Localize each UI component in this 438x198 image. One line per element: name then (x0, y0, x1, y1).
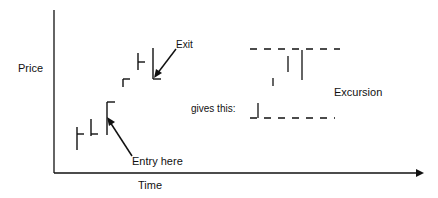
entry-label: Entry here (132, 155, 183, 167)
diagram-canvas (0, 0, 438, 198)
price-bar-5 (138, 53, 145, 70)
y-axis-label: Price (18, 62, 43, 74)
exit-label: Exit (176, 39, 193, 51)
entry-arrow-icon (107, 117, 132, 156)
excursion-label: Excursion (334, 86, 382, 98)
exit-arrow-icon (154, 49, 176, 78)
gives-label: gives this: (191, 103, 235, 115)
x-axis-arrowhead-icon (416, 169, 424, 177)
price-bar-4 (123, 79, 130, 87)
price-bar-2 (91, 119, 98, 136)
excursion-diagram (250, 49, 340, 118)
x-axis-label: Time (138, 179, 162, 191)
price-bar-1 (77, 127, 84, 150)
